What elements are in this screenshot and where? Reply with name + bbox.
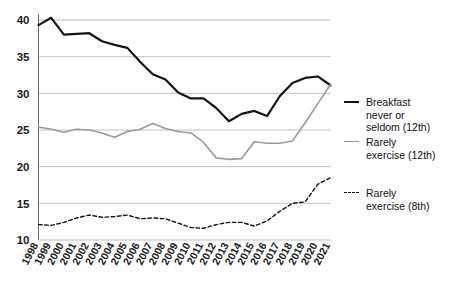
legend-label-rarely-exercise-12th: Rarely exercise (12th) (366, 136, 455, 161)
line-chart: 10152025303540 1998199920002001200220032… (0, 0, 455, 288)
y-tick-labels: 10152025303540 (17, 14, 30, 246)
legend-swatch-solid-black (344, 101, 359, 103)
y-tick-label: 15 (17, 198, 30, 210)
series-line-0 (39, 18, 331, 121)
legend-swatch-solid-gray (344, 141, 359, 142)
y-tick-label: 25 (17, 124, 30, 136)
y-tick-label: 40 (17, 14, 30, 26)
x-tick-labels: 1998199920002001200220032004200520062007… (19, 240, 333, 266)
y-tick-label: 30 (17, 88, 30, 100)
y-tick-label: 20 (17, 161, 30, 173)
y-tick-label: 35 (17, 51, 30, 63)
legend-label-breakfast-never-or-seldom-12th: Breakfast never or seldom (12th) (366, 96, 455, 134)
legend-swatch-dashed-black (344, 192, 359, 193)
data-series-group (39, 18, 331, 228)
legend-label-rarely-exercise-8th: Rarely exercise (8th) (366, 187, 455, 212)
